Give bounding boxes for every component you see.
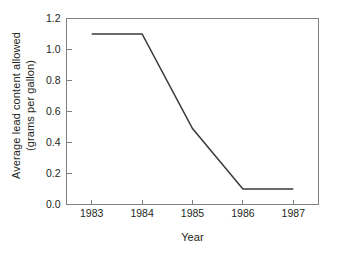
y-axis-tick-label: 0.0 (31, 199, 61, 210)
y-axis-tick-label: 0.8 (31, 75, 61, 86)
y-axis-tick-label: 1.0 (31, 44, 61, 55)
data-line (92, 34, 294, 189)
x-axis-title: Year (66, 231, 319, 243)
line-chart-figure: Average lead content allowed (grams per … (0, 0, 339, 256)
x-axis-tick-label: 1986 (221, 208, 265, 219)
x-axis-ticks (92, 200, 294, 205)
plot-frame-rect (67, 19, 319, 205)
y-axis-tick-label: 0.6 (31, 106, 61, 117)
x-axis-tick-label: 1984 (120, 208, 164, 219)
plot-frame (67, 19, 319, 205)
x-axis-tick-label: 1987 (271, 208, 315, 219)
y-axis-tick-label: 1.2 (31, 13, 61, 24)
x-axis-tick-label: 1983 (70, 208, 114, 219)
y-axis-tick-label: 0.4 (31, 137, 61, 148)
x-axis-tick-label: 1985 (171, 208, 215, 219)
data-series-group (92, 34, 294, 189)
y-axis-ticks (67, 19, 72, 205)
y-axis-tick-label: 0.2 (31, 168, 61, 179)
